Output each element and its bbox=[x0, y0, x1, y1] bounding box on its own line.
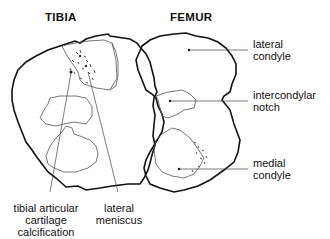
leader-tibial-cartilage bbox=[50, 73, 71, 192]
label-lateral-condyle: lateral condyle bbox=[253, 38, 291, 62]
tibia-title: TIBIA bbox=[45, 11, 77, 23]
calcification-stipple bbox=[70, 50, 95, 83]
tibia-outline bbox=[12, 34, 157, 190]
femur-outline bbox=[136, 33, 240, 192]
label-intercondylar-notch: intercondylar notch bbox=[253, 89, 316, 113]
label-tibial-cartilage: tibial articular cartilage calcification bbox=[6, 202, 86, 238]
leader-lateral-meniscus bbox=[88, 72, 118, 192]
femur-stipple bbox=[192, 142, 207, 172]
femur-title: FEMUR bbox=[170, 11, 212, 23]
tibia-inner-lower bbox=[46, 126, 98, 172]
label-lateral-meniscus: lateral meniscus bbox=[94, 202, 144, 226]
label-medial-condyle: medial condyle bbox=[253, 157, 291, 181]
